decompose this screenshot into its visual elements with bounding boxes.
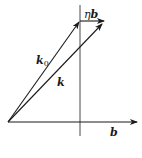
- k0-subscript: 0: [44, 59, 49, 68]
- eta-symbol: η: [84, 8, 91, 21]
- eta-b-label: ηb: [84, 9, 98, 20]
- k0-vector-arrow: [8, 22, 79, 122]
- k0-label: k0: [36, 55, 49, 68]
- vector-diagram: [0, 0, 142, 158]
- eta-b-vec: b: [91, 8, 99, 21]
- b-label: b: [110, 127, 118, 138]
- k-vector-arrow: [8, 24, 102, 122]
- k-main: k: [57, 76, 65, 89]
- b-main: b: [110, 126, 118, 139]
- k-label: k: [57, 77, 65, 88]
- k0-main: k: [36, 54, 44, 67]
